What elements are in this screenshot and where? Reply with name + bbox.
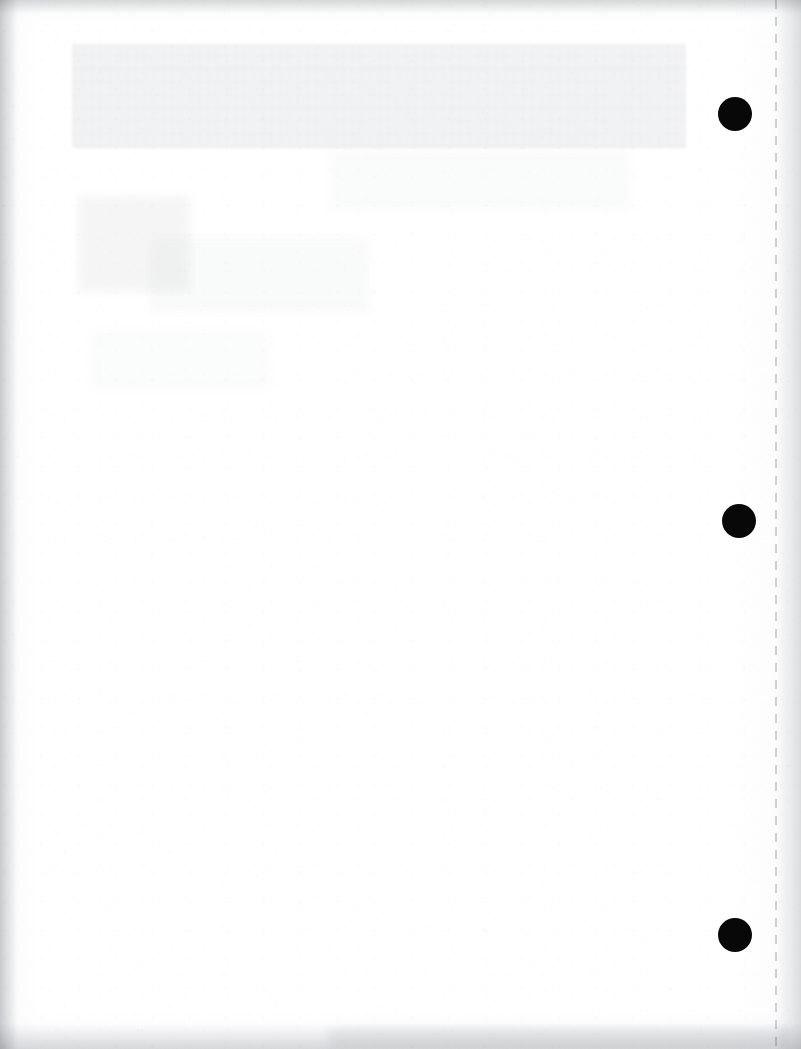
scan-smudge [78,196,190,292]
scan-smudge [330,150,630,210]
scanned-page [0,0,801,1049]
scan-smudge [90,330,270,390]
top-edge-shadow [0,0,801,14]
paper-grain-texture [0,0,801,1049]
right-edge-shadow [775,0,801,1049]
punch-hole-mark [718,918,752,952]
perforation-line [775,0,777,1049]
left-edge-shadow [0,0,18,1049]
punch-hole-mark [722,504,756,538]
scan-smudge [150,238,370,312]
ghost-text-band [72,44,686,148]
bottom-edge-smudge [330,1027,790,1049]
punch-hole-mark [718,97,752,131]
